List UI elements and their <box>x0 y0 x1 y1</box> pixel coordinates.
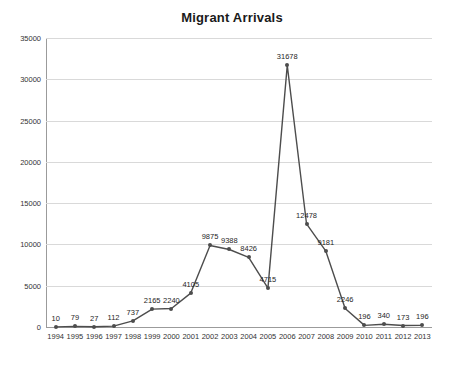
data-point-label: 737 <box>127 308 140 317</box>
x-tick-label: 1996 <box>86 332 103 341</box>
x-tick-label: 2013 <box>414 332 431 341</box>
x-tick-label: 2006 <box>279 332 296 341</box>
x-tick-label: 2004 <box>240 332 257 341</box>
grid-line <box>46 327 432 328</box>
x-tick-label: 1998 <box>125 332 142 341</box>
x-tick-label: 1995 <box>67 332 84 341</box>
chart-container: Migrant Arrivals 05000100001500020000250… <box>0 0 464 377</box>
x-tick-label: 2009 <box>337 332 354 341</box>
x-tick-label: 2012 <box>395 332 412 341</box>
x-tick-label: 2003 <box>221 332 238 341</box>
series-line <box>46 38 432 327</box>
data-point <box>54 325 58 329</box>
data-point-label: 31678 <box>277 52 298 61</box>
data-point-label: 12478 <box>296 211 317 220</box>
x-tick-label: 2001 <box>182 332 199 341</box>
data-point <box>189 291 193 295</box>
data-point-label: 4105 <box>182 280 199 289</box>
data-point-label: 10 <box>51 314 59 323</box>
data-point-label: 9388 <box>221 236 238 245</box>
data-point <box>305 222 309 226</box>
data-point-label: 27 <box>90 314 98 323</box>
data-point-label: 4715 <box>260 275 277 284</box>
y-tick-label: 5000 <box>24 281 41 290</box>
data-point <box>266 286 270 290</box>
data-point-label: 2240 <box>163 296 180 305</box>
chart-title: Migrant Arrivals <box>0 10 464 25</box>
data-point-label: 196 <box>358 312 371 321</box>
data-point-label: 9181 <box>318 238 335 247</box>
data-point-label: 8426 <box>240 244 257 253</box>
x-tick-label: 1994 <box>47 332 64 341</box>
x-tick-label: 1999 <box>144 332 161 341</box>
data-point <box>401 324 405 328</box>
data-point-label: 340 <box>377 311 390 320</box>
x-tick-label: 2011 <box>376 332 392 341</box>
x-tick-label: 2010 <box>356 332 373 341</box>
x-tick-label: 2005 <box>260 332 277 341</box>
y-tick-label: 15000 <box>20 199 41 208</box>
data-point-label: 2246 <box>337 295 354 304</box>
data-point <box>382 322 386 326</box>
y-tick-label: 20000 <box>20 157 41 166</box>
x-tick-label: 1997 <box>105 332 122 341</box>
data-point-label: 173 <box>397 313 410 322</box>
data-point-label: 79 <box>71 313 79 322</box>
y-tick-label: 30000 <box>20 75 41 84</box>
data-point-label: 2165 <box>144 296 161 305</box>
data-point-label: 196 <box>416 312 429 321</box>
data-point-label: 112 <box>108 313 120 322</box>
x-tick-label: 2000 <box>163 332 180 341</box>
data-point <box>92 325 96 329</box>
data-point <box>131 319 135 323</box>
x-tick-label: 2007 <box>298 332 315 341</box>
y-tick-label: 35000 <box>20 34 41 43</box>
x-tick-label: 2008 <box>318 332 335 341</box>
plot-area: 05000100001500020000250003000035000 1994… <box>46 38 432 327</box>
data-point <box>112 324 116 328</box>
y-tick-label: 25000 <box>20 116 41 125</box>
y-tick-label: 0 <box>37 323 41 332</box>
x-tick-label: 2002 <box>202 332 219 341</box>
data-point-label: 9875 <box>202 232 219 241</box>
y-tick-label: 10000 <box>20 240 41 249</box>
